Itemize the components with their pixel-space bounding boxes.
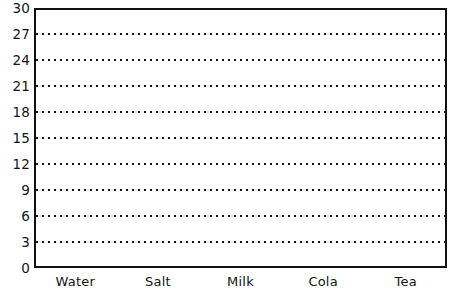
bar-chart-figure: 036912151821242730 WaterSaltMilkColaTea xyxy=(0,0,464,305)
y-tick-label: 18 xyxy=(0,105,30,119)
y-tick-label: 9 xyxy=(0,183,30,197)
y-tick-label: 30 xyxy=(0,1,30,15)
y-tick-label: 27 xyxy=(0,27,30,41)
y-tick-label: 21 xyxy=(0,79,30,93)
y-tick-label: 24 xyxy=(0,53,30,67)
x-tick-label: Milk xyxy=(227,274,254,290)
x-tick-label: Salt xyxy=(145,274,171,290)
x-tick-label: Cola xyxy=(308,274,337,290)
x-axis: WaterSaltMilkColaTea xyxy=(34,274,447,296)
y-tick-label: 12 xyxy=(0,157,30,171)
x-tick-label: Tea xyxy=(395,274,417,290)
y-tick-label: 15 xyxy=(0,131,30,145)
y-axis: 036912151821242730 xyxy=(0,0,30,305)
y-tick-label: 3 xyxy=(0,235,30,249)
bars-layer xyxy=(36,10,445,266)
y-tick-label: 0 xyxy=(0,261,30,275)
y-tick-label: 6 xyxy=(0,209,30,223)
x-tick-label: Water xyxy=(56,274,95,290)
plot-area xyxy=(34,8,447,268)
